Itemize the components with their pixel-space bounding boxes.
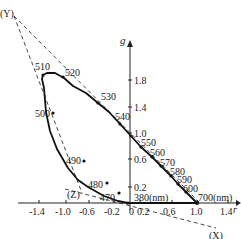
- axes: [18, 40, 241, 210]
- svg-text:1.4: 1.4: [134, 102, 147, 113]
- svg-text:0.6: 0.6: [163, 206, 176, 217]
- svg-text:530: 530: [101, 91, 116, 102]
- locus-points: [41, 73, 199, 205]
- primary-y-label: (Y): [0, 8, 14, 20]
- g-axis-arrow-icon: [127, 40, 133, 47]
- svg-text:510: 510: [35, 61, 50, 72]
- svg-text:470: 470: [100, 192, 115, 203]
- svg-text:480: 480: [88, 179, 103, 190]
- svg-text:540: 540: [115, 111, 130, 122]
- svg-text:380(nm): 380(nm): [134, 192, 168, 204]
- svg-text:-1.4: -1.4: [29, 206, 45, 217]
- svg-text:-1.0: -1.0: [55, 206, 71, 217]
- yz-edge: [14, 16, 82, 193]
- g-tick-labels: 1.8 1.4 1.0 0.6 0.2: [134, 75, 147, 193]
- svg-text:520: 520: [65, 67, 80, 78]
- svg-text:1.4: 1.4: [220, 206, 233, 217]
- svg-text:600: 600: [183, 183, 198, 194]
- svg-text:0.6: 0.6: [134, 154, 147, 165]
- svg-text:1.0: 1.0: [190, 206, 203, 217]
- spectral-locus: [42, 73, 197, 203]
- svg-text:0.2: 0.2: [137, 206, 150, 217]
- primary-z-label: (Z): [67, 189, 80, 201]
- svg-text:-0.6: -0.6: [79, 206, 95, 217]
- chromaticity-diagram: g r -1.4 -1.0 -0.6 -0.2 0 0.2 0.6 1.0 1.…: [0, 0, 241, 239]
- svg-text:490: 490: [66, 155, 81, 166]
- svg-text:-0.2: -0.2: [104, 206, 120, 217]
- r-tick-labels: -1.4 -1.0 -0.6 -0.2 0 0.2 0.6 1.0 1.4: [29, 206, 233, 217]
- r-axis-label: r: [233, 204, 237, 215]
- primary-x-label: (X): [209, 230, 223, 239]
- g-axis-label: g: [120, 34, 126, 46]
- svg-text:500: 500: [35, 108, 50, 119]
- xyz-triangle: [14, 16, 216, 228]
- svg-text:1.8: 1.8: [134, 75, 147, 86]
- svg-text:0: 0: [129, 206, 134, 217]
- svg-text:700(nm): 700(nm): [198, 192, 232, 204]
